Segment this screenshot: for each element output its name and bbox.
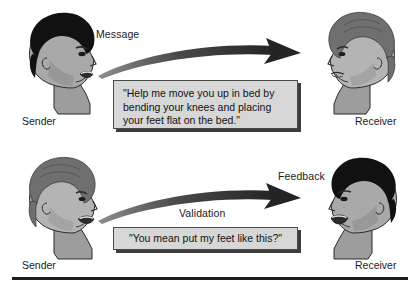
receiver-head-dark-left-facing [318, 151, 412, 261]
message-row-sender-label: Sender [22, 115, 56, 127]
message-row-receiver-label: Receiver [355, 115, 396, 127]
message-quote-text: "Help me move you up in bed by bending y… [123, 87, 288, 128]
feedback-quote-text: "You mean put my feet like this?" [123, 232, 288, 246]
message-arrow-label: Message [96, 28, 139, 40]
bottom-divider-rule [12, 277, 408, 280]
sender-head-gray-right-facing [14, 151, 108, 261]
communication-diagram: Message "Help me move you up in bed by b… [0, 0, 418, 286]
message-quote-box: "Help me move you up in bed by bending y… [113, 80, 298, 129]
feedback-quote-box: "You mean put my feet like this?" [113, 227, 298, 250]
feedback-row-sender-label: Sender [22, 259, 56, 271]
receiver-head-gray-left-facing [318, 8, 410, 116]
feedback-row-panel: Feedback Validation "You mean put my fee… [0, 143, 418, 286]
sender-head-dark-right-facing [14, 8, 106, 116]
feedback-row-receiver-label: Receiver [355, 259, 396, 271]
message-arrow [96, 36, 314, 80]
validation-label: Validation [179, 207, 225, 219]
message-row-panel: Message "Help me move you up in bed by b… [0, 0, 418, 143]
feedback-arrow-label: Feedback [278, 170, 325, 182]
